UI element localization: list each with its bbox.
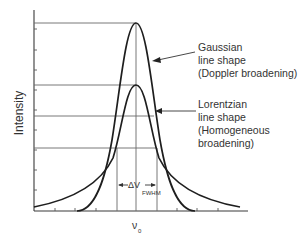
fwhm-label-sub: FWHM bbox=[142, 190, 161, 196]
arrow-icon bbox=[152, 57, 161, 63]
lorentzian-label-3: (Homogeneous bbox=[198, 124, 270, 136]
lorentzian-label-1: Lorentzian bbox=[198, 98, 247, 110]
lorentzian-label-4: broadening) bbox=[198, 137, 254, 149]
gaussian-label-1: Gaussian bbox=[198, 41, 243, 53]
gaussian-label-3: (Doppler broadening) bbox=[198, 67, 297, 79]
line-shape-diagram: ΔV FWHM Gaussian line shape (Doppler bro… bbox=[0, 0, 308, 244]
y-axis-label: Intensity bbox=[12, 91, 26, 136]
x-axis-label: ν bbox=[132, 219, 137, 231]
fwhm-indicator: ΔV FWHM bbox=[118, 180, 161, 196]
gaussian-callout: Gaussian line shape (Doppler broadening) bbox=[152, 41, 297, 79]
lorentzian-label-2: line shape bbox=[198, 111, 246, 123]
gaussian-label-2: line shape bbox=[198, 54, 246, 66]
lorentzian-callout: Lorentzian line shape (Homogeneous broad… bbox=[155, 98, 270, 149]
x-axis-label-sub: 0 bbox=[138, 228, 142, 234]
fwhm-label: ΔV bbox=[128, 180, 140, 190]
